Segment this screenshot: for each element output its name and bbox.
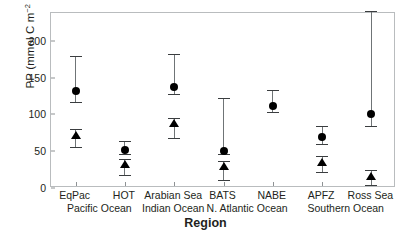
error-bar-cap-upper	[365, 11, 377, 12]
error-bar-cap-lower	[70, 147, 82, 148]
x-axis-group-label: Pacific Ocean	[67, 202, 132, 214]
error-bar-line	[223, 98, 224, 155]
error-bar-cap-upper	[119, 141, 131, 142]
error-bar-cap-lower	[365, 185, 377, 186]
x-axis-tick-label: NABE	[257, 189, 286, 201]
marker-circle	[269, 102, 277, 110]
error-bar-cap-upper	[365, 170, 377, 171]
marker-circle	[72, 87, 80, 95]
x-axis-tick-mark	[174, 182, 175, 186]
x-axis-tick-mark	[224, 182, 225, 186]
marker-triangle	[71, 131, 81, 139]
error-bar-line	[75, 56, 76, 102]
marker-circle	[170, 83, 178, 91]
error-bar-cap-lower	[70, 102, 82, 103]
x-axis-group-label: N. Atlantic Ocean	[207, 202, 288, 214]
x-axis-tick-mark	[322, 182, 323, 186]
marker-triangle	[120, 160, 130, 168]
marker-triangle	[169, 119, 179, 127]
chart-figure: PP (mmol C m−2 d−1) 050100150200 EqPacHO…	[0, 0, 411, 237]
error-bar-cap-upper	[218, 98, 230, 99]
x-axis-tick-label: HOT	[113, 189, 135, 201]
marker-circle	[121, 146, 129, 154]
plot-area: 050100150200	[50, 12, 395, 187]
marker-triangle	[219, 162, 229, 170]
y-axis-tick-label: 100	[28, 108, 46, 120]
x-axis-tick-label: APFZ	[308, 189, 335, 201]
y-axis-tick-mark	[51, 40, 55, 41]
y-axis-label-mid: d	[24, 0, 36, 4]
x-axis-tick-mark	[76, 182, 77, 186]
x-axis-tick-label: EqPac	[59, 189, 90, 201]
error-bar-cap-upper	[267, 90, 279, 91]
x-axis-tick-label: Arabian Sea	[144, 189, 202, 201]
error-bar-cap-lower	[316, 144, 328, 145]
y-axis-label-sup1: −2	[23, 4, 32, 13]
x-axis-tick-mark	[273, 182, 274, 186]
x-axis-title: Region	[0, 216, 411, 230]
error-bar-cap-lower	[365, 126, 377, 127]
y-axis-label: PP (mmol C m−2 d−1)	[23, 0, 37, 122]
marker-circle	[318, 133, 326, 141]
x-axis-tick-label: Ross Sea	[348, 189, 394, 201]
y-axis-tick-label: 150	[28, 72, 46, 84]
error-bar-cap-upper	[70, 129, 82, 130]
error-bar-cap-lower	[218, 180, 230, 181]
y-axis-tick-mark	[51, 114, 55, 115]
x-axis-tick-mark	[125, 182, 126, 186]
error-bar-cap-upper	[70, 56, 82, 57]
marker-triangle	[366, 172, 376, 180]
error-bar-cap-upper	[316, 126, 328, 127]
error-bar-cap-lower	[267, 112, 279, 113]
y-axis-tick-mark	[51, 77, 55, 78]
x-axis-group-label: Indian Ocean	[142, 202, 204, 214]
error-bar-cap-upper	[316, 156, 328, 157]
marker-triangle	[317, 158, 327, 166]
y-axis-tick-label: 0	[40, 182, 46, 194]
x-axis-tick-labels: EqPacHOTArabian SeaBATSNABEAPFZRoss SeaP…	[50, 189, 395, 215]
error-bar-cap-upper	[168, 54, 180, 55]
y-axis-tick-label: 200	[28, 35, 46, 47]
y-axis-tick-mark	[51, 151, 55, 152]
marker-circle	[220, 147, 228, 155]
marker-circle	[367, 110, 375, 118]
y-axis-tick-label: 50	[34, 145, 46, 157]
error-bar-cap-lower	[119, 175, 131, 176]
error-bar-cap-lower	[316, 172, 328, 173]
x-axis-group-label: Southern Ocean	[307, 202, 383, 214]
x-axis-tick-label: BATS	[209, 189, 236, 201]
error-bar-cap-lower	[168, 138, 180, 139]
error-bar-cap-lower	[168, 94, 180, 95]
